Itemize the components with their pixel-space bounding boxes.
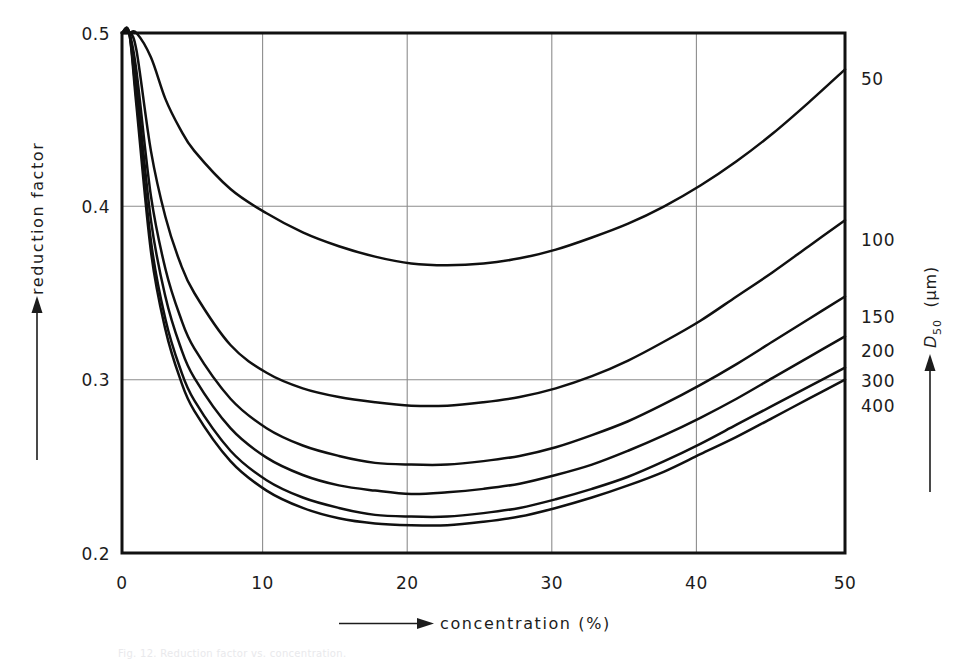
right-axis-title-unit: (µm) bbox=[921, 266, 940, 307]
figure-container: 0.5 0.4 0.3 0.2 0 10 20 30 40 50 50 100 … bbox=[0, 0, 954, 662]
right-axis-title-sub: 50 bbox=[931, 319, 944, 335]
series-label-200: 200 bbox=[861, 341, 895, 361]
series-label-100: 100 bbox=[861, 230, 895, 250]
horizontal-gridlines bbox=[122, 206, 845, 379]
plot-frame bbox=[122, 33, 845, 553]
series-label-150: 150 bbox=[861, 307, 895, 327]
x-tick-label-5: 50 bbox=[834, 573, 857, 593]
curve-group bbox=[122, 28, 845, 526]
series-labels: 50 100 150 200 300 400 bbox=[861, 69, 895, 416]
x-tick-label-0: 0 bbox=[116, 573, 127, 593]
x-axis-tick-labels: 0 10 20 30 40 50 bbox=[116, 573, 856, 593]
right-axis-title-group: D50 (µm) bbox=[921, 266, 944, 492]
chart-svg: 0.5 0.4 0.3 0.2 0 10 20 30 40 50 50 100 … bbox=[0, 0, 954, 662]
x-axis-title: concentration (%) bbox=[440, 614, 611, 633]
right-axis-title: D50 (µm) bbox=[921, 266, 944, 348]
curve-300 bbox=[122, 28, 845, 517]
y-axis-title: reduction factor bbox=[28, 142, 47, 295]
right-axis-title-main: D bbox=[921, 335, 940, 348]
series-label-300: 300 bbox=[861, 371, 895, 391]
x-axis-title-group: concentration (%) bbox=[339, 614, 611, 633]
series-label-400: 400 bbox=[861, 396, 895, 416]
right-axis-arrow-head bbox=[925, 354, 936, 371]
y-tick-label-0: 0.5 bbox=[81, 24, 110, 44]
y-axis-title-group: reduction factor bbox=[28, 142, 47, 460]
figure-caption: Fig. 12. Reduction factor vs. concentrat… bbox=[118, 648, 346, 659]
x-tick-label-4: 40 bbox=[685, 573, 708, 593]
series-label-50: 50 bbox=[861, 69, 884, 89]
x-axis-arrow-head bbox=[417, 618, 434, 629]
x-tick-label-3: 30 bbox=[540, 573, 563, 593]
curve-50 bbox=[122, 31, 845, 265]
y-tick-label-1: 0.4 bbox=[81, 197, 110, 217]
y-axis-tick-labels: 0.5 0.4 0.3 0.2 bbox=[81, 24, 110, 564]
curve-100 bbox=[122, 32, 845, 406]
x-tick-label-2: 20 bbox=[396, 573, 419, 593]
x-tick-label-1: 10 bbox=[251, 573, 274, 593]
y-tick-label-3: 0.2 bbox=[81, 544, 110, 564]
y-axis-arrow-head bbox=[32, 296, 43, 313]
y-tick-label-2: 0.3 bbox=[81, 370, 110, 390]
